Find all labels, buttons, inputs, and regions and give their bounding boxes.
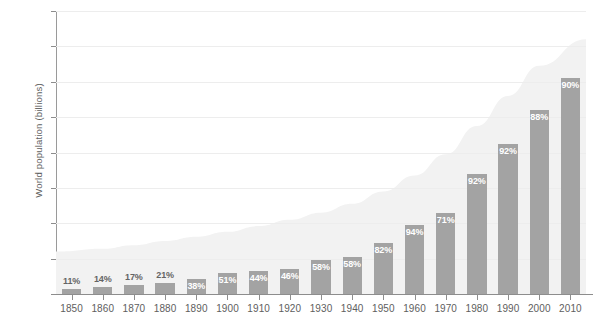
y-axis-tick-mark	[51, 11, 56, 12]
gridline	[56, 82, 586, 83]
y-axis-tick-mark	[51, 82, 56, 83]
bar-value-label: 58%	[337, 259, 368, 269]
gridline	[56, 46, 586, 47]
y-axis-tick-mark	[51, 46, 56, 47]
gridline	[56, 11, 586, 12]
plot-area: 11%14%17%21%38%51%44%46%58%58%82%94%71%9…	[56, 11, 586, 294]
x-axis-tick-mark	[103, 295, 104, 300]
x-axis-tick-mark	[383, 295, 384, 300]
x-axis-tick-mark	[72, 295, 73, 300]
y-axis-tick-mark	[51, 117, 56, 118]
y-axis-title: World population (billions)	[33, 41, 44, 241]
bar[interactable]	[124, 285, 143, 294]
x-axis-tick-mark	[570, 295, 571, 300]
x-axis-tick-mark	[290, 295, 291, 300]
y-axis-tick-mark	[51, 294, 56, 295]
bar-value-label: 17%	[118, 272, 149, 282]
bar-value-label: 11%	[56, 276, 87, 286]
x-axis-tick-mark	[227, 295, 228, 300]
x-axis-tick-mark	[259, 295, 260, 300]
bar[interactable]	[498, 144, 517, 294]
bar[interactable]	[530, 110, 549, 294]
bar-value-label: 58%	[305, 262, 336, 272]
x-axis-tick-mark	[134, 295, 135, 300]
x-axis-tick-mark	[446, 295, 447, 300]
bar[interactable]	[561, 78, 580, 294]
bar-value-label: 46%	[274, 271, 305, 281]
bar-value-label: 44%	[243, 273, 274, 283]
chart-container: World population (billions) 11%14%17%21%…	[0, 0, 600, 327]
x-axis-tick-mark	[321, 295, 322, 300]
x-axis-tick-mark	[165, 295, 166, 300]
x-axis-tick-mark	[508, 295, 509, 300]
bar[interactable]	[62, 289, 81, 294]
bar[interactable]	[436, 213, 455, 294]
x-axis-tick-mark	[352, 295, 353, 300]
bar[interactable]	[467, 174, 486, 294]
bar-value-label: 92%	[492, 146, 523, 156]
gridline	[56, 117, 586, 118]
bar-value-label: 82%	[368, 245, 399, 255]
bar-value-label: 92%	[461, 176, 492, 186]
bar-value-label: 88%	[524, 112, 555, 122]
x-axis-line	[56, 294, 593, 295]
y-axis-tick-mark	[51, 259, 56, 260]
bar-value-label: 21%	[150, 270, 181, 280]
y-axis-tick-mark	[51, 153, 56, 154]
y-axis-tick-mark	[51, 223, 56, 224]
y-axis-tick-mark	[51, 188, 56, 189]
x-axis-tick-mark	[539, 295, 540, 300]
x-axis-tick-mark	[477, 295, 478, 300]
bar[interactable]	[93, 287, 112, 294]
bar-value-label: 90%	[555, 80, 586, 90]
x-axis-tick-mark	[415, 295, 416, 300]
bar-value-label: 51%	[212, 275, 243, 285]
bar-value-label: 14%	[87, 274, 118, 284]
bar-value-label: 38%	[181, 281, 212, 291]
bar-value-label: 94%	[399, 227, 430, 237]
bar[interactable]	[155, 283, 174, 294]
bar-value-label: 71%	[430, 215, 461, 225]
x-axis-tick-label: 2010	[550, 303, 590, 314]
x-axis-tick-mark	[196, 295, 197, 300]
